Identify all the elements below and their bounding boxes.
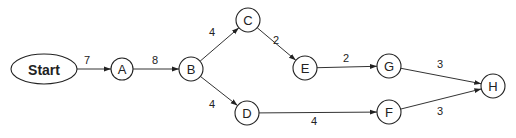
edge-weight-a-b: 8 bbox=[152, 54, 158, 66]
node-e: E bbox=[293, 56, 317, 80]
edge-b-d bbox=[200, 76, 237, 105]
node-d: D bbox=[235, 101, 259, 125]
edge-weight-start-a: 7 bbox=[84, 54, 90, 66]
edge-weight-b-d: 4 bbox=[209, 98, 215, 110]
edge-b-c bbox=[200, 28, 239, 61]
edge-g-h bbox=[401, 68, 481, 83]
node-label: D bbox=[242, 106, 251, 121]
node-a: A bbox=[111, 58, 133, 80]
node-c: C bbox=[236, 8, 260, 32]
edge-e-g bbox=[317, 66, 377, 67]
node-h: H bbox=[481, 74, 505, 98]
node-f: F bbox=[377, 100, 401, 124]
node-label: F bbox=[385, 105, 393, 120]
network-diagram: 784422433 StartABCDEGFH bbox=[0, 0, 516, 138]
edge-d-f bbox=[259, 112, 377, 113]
edge-weight-d-f: 4 bbox=[311, 115, 317, 127]
node-label: Start bbox=[28, 62, 60, 78]
edge-weight-c-e: 2 bbox=[273, 34, 279, 46]
node-label: G bbox=[384, 59, 394, 74]
node-label: H bbox=[488, 79, 497, 94]
edge-weight-f-h: 3 bbox=[437, 105, 443, 117]
edge-weight-e-g: 2 bbox=[343, 52, 349, 64]
nodes-group: StartABCDEGFH bbox=[11, 8, 505, 125]
node-start: Start bbox=[11, 54, 77, 84]
node-label: E bbox=[301, 61, 310, 76]
node-b: B bbox=[179, 57, 203, 81]
edge-weight-g-h: 3 bbox=[437, 58, 443, 70]
node-label: C bbox=[243, 13, 252, 28]
node-g: G bbox=[377, 54, 401, 78]
node-label: A bbox=[118, 62, 127, 77]
node-label: B bbox=[187, 62, 196, 77]
edge-weight-b-c: 4 bbox=[209, 26, 215, 38]
edges-group: 784422433 bbox=[77, 26, 481, 127]
